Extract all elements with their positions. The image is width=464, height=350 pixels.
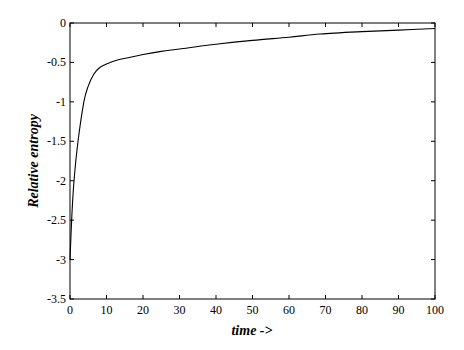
x-tick-label: 0 <box>67 303 73 317</box>
x-axis-label: time -> <box>231 323 272 338</box>
chart: 01020304050607080901000-0.5-1-1.5-2-2.5-… <box>0 0 464 350</box>
x-tick-label: 10 <box>101 303 113 317</box>
x-tick-label: 60 <box>283 303 295 317</box>
x-tick-label: 30 <box>174 303 186 317</box>
x-tick-label: 80 <box>356 303 368 317</box>
y-tick-label: -2 <box>56 174 66 188</box>
series-line <box>70 29 435 260</box>
x-tick-label: 70 <box>320 303 332 317</box>
x-tick-label: 40 <box>210 303 222 317</box>
x-tick-label: 20 <box>137 303 149 317</box>
y-axis-label: Relative entropy <box>26 113 41 208</box>
x-tick-label: 90 <box>393 303 405 317</box>
axes: 01020304050607080901000-0.5-1-1.5-2-2.5-… <box>47 16 444 317</box>
y-tick-label: -2.5 <box>47 213 66 227</box>
axes-frame <box>70 23 435 299</box>
y-tick-label: -1 <box>56 95 66 109</box>
y-tick-label: -3.5 <box>47 292 66 306</box>
x-tick-label: 100 <box>426 303 444 317</box>
plot-area <box>70 29 435 260</box>
y-tick-label: -3 <box>56 253 66 267</box>
y-tick-label: 0 <box>60 16 66 30</box>
x-tick-label: 50 <box>247 303 259 317</box>
y-tick-label: -0.5 <box>47 55 66 69</box>
y-tick-label: -1.5 <box>47 134 66 148</box>
